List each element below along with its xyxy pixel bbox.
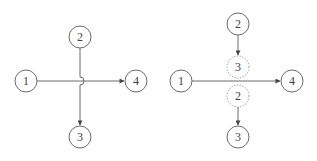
svg-text:3: 3 (235, 130, 241, 144)
svg-text:1: 1 (178, 74, 184, 88)
svg-text:3: 3 (77, 130, 83, 144)
node-1[interactable]: 1 (170, 70, 192, 92)
edge-2-to-3-hop (80, 48, 84, 125)
node-4[interactable]: 4 (125, 70, 147, 92)
svg-text:3: 3 (235, 60, 241, 74)
svg-text:1: 1 (23, 74, 29, 88)
left-diagram: 1 2 4 3 (15, 26, 147, 148)
svg-text:2: 2 (235, 89, 241, 103)
node-3[interactable]: 3 (69, 126, 91, 148)
node-3[interactable]: 3 (227, 126, 249, 148)
svg-text:4: 4 (289, 74, 295, 88)
node-2[interactable]: 2 (69, 26, 91, 48)
right-diagram: 1 2 3 2 4 3 (170, 13, 303, 148)
diagram-canvas: 1 2 4 3 1 2 3 (0, 0, 317, 161)
svg-text:4: 4 (133, 74, 139, 88)
node-4[interactable]: 4 (281, 70, 303, 92)
ghost-node-2[interactable]: 2 (227, 85, 249, 107)
svg-text:2: 2 (77, 30, 83, 44)
svg-text:2: 2 (235, 17, 241, 31)
node-2[interactable]: 2 (227, 13, 249, 35)
node-1[interactable]: 1 (15, 70, 37, 92)
ghost-node-3[interactable]: 3 (227, 56, 249, 78)
